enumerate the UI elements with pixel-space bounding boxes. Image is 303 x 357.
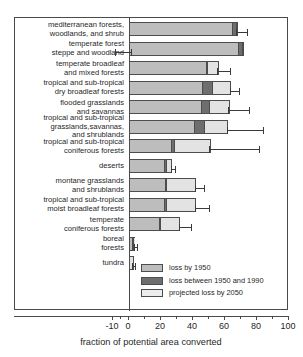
error-bar-line xyxy=(209,149,259,150)
segment-projected-2050 xyxy=(213,82,230,94)
error-bar-cap-high xyxy=(239,88,240,95)
legend-swatch-projected-2050 xyxy=(141,289,163,297)
legend: loss by 1950 loss between 1950 and 1990 … xyxy=(141,262,286,300)
category-label: mediterranean forests, woodlands, and sh… xyxy=(15,21,127,38)
error-bar-cap-high xyxy=(247,29,248,36)
legend-item-loss-by-1950: loss by 1950 xyxy=(141,262,286,275)
bar-row: tropical and sub-tropical dry broadleaf … xyxy=(15,81,287,101)
x-tick xyxy=(160,316,161,320)
stacked-bar xyxy=(129,100,230,114)
bar-row: boreal forests xyxy=(15,237,287,257)
x-minor-tick xyxy=(272,316,273,319)
x-tick xyxy=(128,316,129,320)
segment-loss-by-1950 xyxy=(130,62,206,74)
x-tick-label: 0 xyxy=(113,321,143,331)
error-bar-cap-low xyxy=(171,166,172,173)
x-tick xyxy=(112,316,113,320)
error-bar-cap-high xyxy=(191,224,192,231)
x-axis-title: fraction of potential area converted xyxy=(14,337,288,347)
x-axis-line xyxy=(14,316,288,317)
error-bar-line xyxy=(115,52,131,53)
legend-item-projected-2050: projected loss by 2050 xyxy=(141,287,286,300)
error-bar-cap-low xyxy=(236,29,237,36)
category-label: temperate broadleaf and mixed forests xyxy=(15,60,127,77)
error-bar-line xyxy=(236,32,247,33)
error-bar-cap-low xyxy=(217,68,218,75)
segment-loss-1950-1990 xyxy=(194,121,205,133)
segment-loss-1950-1990 xyxy=(238,43,243,55)
error-bar-cap-low xyxy=(228,107,229,114)
category-label: montane grasslands and shrublands xyxy=(15,177,127,194)
x-minor-tick xyxy=(144,316,145,319)
legend-label-projected-2050: projected loss by 2050 xyxy=(169,287,243,300)
category-label: tropical and sub-tropical moist broadlea… xyxy=(15,196,127,213)
segment-loss-by-1950 xyxy=(130,199,164,211)
error-bar-line xyxy=(195,208,209,209)
segment-loss-1950-1990 xyxy=(201,101,210,113)
segment-loss-1950-1990 xyxy=(202,82,213,94)
error-bar-cap-low xyxy=(227,127,228,134)
error-bar-line xyxy=(230,91,240,92)
stacked-bar xyxy=(129,139,211,153)
error-bar-cap-high xyxy=(259,146,260,153)
x-tick xyxy=(192,316,193,320)
x-tick xyxy=(256,316,257,320)
x-tick-label: 60 xyxy=(209,321,239,331)
stacked-bar xyxy=(129,198,196,212)
x-tick-label: 80 xyxy=(241,321,271,331)
legend-label-loss-1950-1990: loss between 1950 and 1990 xyxy=(169,275,264,288)
error-bar-line xyxy=(227,130,264,131)
segment-loss-by-1950 xyxy=(130,101,201,113)
error-bar-cap-high xyxy=(131,49,132,56)
segment-loss-by-1950 xyxy=(130,43,238,55)
legend-item-loss-1950-1990: loss between 1950 and 1990 xyxy=(141,275,286,288)
x-tick-label: 100 xyxy=(273,321,303,331)
segment-loss-by-1950 xyxy=(130,140,171,152)
segment-projected-2050 xyxy=(210,101,229,113)
stacked-bar xyxy=(129,120,228,134)
segment-loss-by-1950 xyxy=(130,82,202,94)
bar-row: tropical and sub-tropical moist broadlea… xyxy=(15,198,287,218)
segment-projected-2050 xyxy=(167,199,195,211)
error-bar-cap-low xyxy=(132,263,133,270)
category-label: temperate forest steppe and woodland xyxy=(15,40,127,57)
legend-swatch-loss-1950-1990 xyxy=(141,277,163,285)
x-minor-tick xyxy=(208,316,209,319)
segment-loss-by-1950 xyxy=(130,179,165,191)
error-bar-line xyxy=(228,110,249,111)
segment-projected-2050 xyxy=(161,218,179,230)
segment-loss-by-1950 xyxy=(130,23,232,35)
segment-projected-2050 xyxy=(167,179,195,191)
stacked-bar xyxy=(129,159,172,173)
stacked-bar xyxy=(129,22,238,36)
error-bar-cap-low xyxy=(195,205,196,212)
stacked-bar xyxy=(129,81,231,95)
category-label: tropical and sub-tropical coniferous for… xyxy=(15,138,127,155)
error-bar-cap-low xyxy=(134,244,135,251)
x-tick xyxy=(288,316,289,320)
x-minor-tick xyxy=(120,316,121,319)
error-bar-cap-high xyxy=(175,166,176,173)
category-label: tropical and sub-tropical dry broadleaf … xyxy=(15,79,127,96)
error-bar-cap-high xyxy=(230,68,231,75)
segment-projected-2050 xyxy=(175,140,209,152)
x-tick-label: 20 xyxy=(145,321,175,331)
error-bar-cap-high xyxy=(209,205,210,212)
legend-label-loss-by-1950: loss by 1950 xyxy=(169,262,211,275)
error-bar-line xyxy=(217,71,230,72)
error-bar-line xyxy=(179,227,192,228)
segment-projected-2050 xyxy=(205,121,227,133)
error-bar-cap-high xyxy=(204,185,205,192)
error-bar-cap-low xyxy=(179,224,180,231)
stacked-bar xyxy=(129,217,180,231)
x-minor-tick xyxy=(240,316,241,319)
stacked-bar xyxy=(129,178,196,192)
category-label: deserts xyxy=(15,162,127,171)
stacked-bar xyxy=(129,61,219,75)
error-bar-cap-low xyxy=(230,88,231,95)
error-bar-cap-high xyxy=(249,107,250,114)
error-bar-cap-high xyxy=(137,244,138,251)
x-minor-tick xyxy=(176,316,177,319)
x-tick xyxy=(224,316,225,320)
chart-figure: mediterranean forests, woodlands, and sh… xyxy=(0,0,303,357)
